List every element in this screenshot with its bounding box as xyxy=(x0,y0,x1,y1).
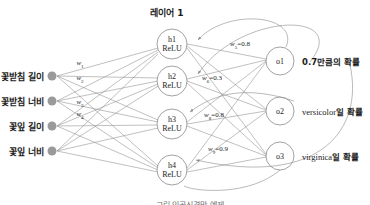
input-label-petal-width: 꽃잎 너비 xyxy=(0,145,44,158)
output-o3-desc-tail: 일 확률 xyxy=(332,152,359,162)
input-node-dot-2 xyxy=(48,122,57,131)
weight-w9-sub: 9 xyxy=(213,150,216,155)
weight-label-w1: w1 xyxy=(76,59,83,68)
weight-label-w8: w8=0.8 xyxy=(204,111,224,120)
input-node-dot-3 xyxy=(48,147,57,156)
weight-label-w6: w6=0.3 xyxy=(202,74,222,83)
input-label-sepal-length: 꽃받침 길이 xyxy=(0,70,44,83)
output-node-circles xyxy=(266,47,294,170)
output-o2-desc-tail: 일 확률 xyxy=(336,107,363,117)
weight-label-w2: w2 xyxy=(76,74,83,83)
input-node-dot-0 xyxy=(48,72,57,81)
output-o2-species: versicolor xyxy=(302,107,336,117)
weight-w4-sub: 4 xyxy=(81,115,84,120)
input-label-petal-length: 꽃잎 길이 xyxy=(0,120,44,133)
hidden-node-circles xyxy=(157,29,187,185)
weight-label-w4: w4 xyxy=(76,110,83,119)
input-label-sepal-width: 꽃받침 너비 xyxy=(0,95,44,108)
weight-label-w9: w9=0.9 xyxy=(208,145,228,154)
output-o3-species: virginica xyxy=(302,152,332,162)
weight-w5-sub: 5 xyxy=(235,45,238,50)
output-description-o1: 0.7만큼의 확률 xyxy=(302,55,360,67)
hidden-layer-title: 레이어 1 xyxy=(150,6,183,19)
neural-network-diagram: 꽃받침 길이 꽃받침 너비 꽃잎 길이 꽃잎 너비 레이어 1 h1 ReLU … xyxy=(0,0,370,205)
figure-caption: 그림 인공신경망 예제 xyxy=(156,199,224,205)
output-description-o2: versicolor일 확률 xyxy=(302,105,363,117)
weight-w5-value: 0.8 xyxy=(241,40,250,48)
weight-w8-sub: 8 xyxy=(209,116,212,121)
weight-w3-sub: 3 xyxy=(81,103,84,108)
input-to-hidden-edges xyxy=(57,48,158,172)
output-description-o3: virginica일 확률 xyxy=(302,150,359,162)
weight-w6-sub: 6 xyxy=(207,79,210,84)
weight-w8-value: 0.8 xyxy=(215,111,224,119)
output-o1-desc-text: 0.7만큼의 확률 xyxy=(302,57,360,67)
weight-label-w3: w3 xyxy=(76,98,83,107)
weight-w9-value: 0.9 xyxy=(219,145,228,153)
weight-label-w5: w5=0.8 xyxy=(230,40,250,49)
weight-w2-sub: 2 xyxy=(81,79,84,84)
weight-w1-sub: 1 xyxy=(81,64,84,69)
weight-w6-value: 0.3 xyxy=(213,74,222,82)
input-node-dot-1 xyxy=(48,97,57,106)
